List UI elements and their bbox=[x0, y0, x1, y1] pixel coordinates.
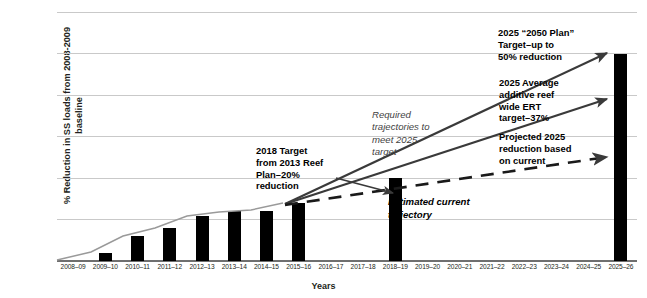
annotation-required-trajectories: Required trajectories to meet 2025 targe… bbox=[372, 109, 430, 159]
x-tick-2021-22: 2021–22 bbox=[480, 263, 505, 270]
x-tick-2024-25: 2024–25 bbox=[576, 263, 601, 270]
bar-2009-10 bbox=[99, 253, 112, 261]
annotation-projected-2025-reduction: Projected 2025 reduction based on curren… bbox=[499, 131, 571, 166]
x-tick-2009-10: 2009–10 bbox=[93, 263, 118, 270]
x-tick-2012-13: 2012–13 bbox=[190, 263, 215, 270]
x-tick-2010-11: 2010–11 bbox=[125, 263, 149, 270]
bar-2012-13 bbox=[196, 216, 209, 261]
bar-2013-14 bbox=[228, 211, 241, 261]
x-tick-2011-12: 2011–12 bbox=[158, 263, 182, 270]
gridline-10 bbox=[57, 219, 637, 220]
x-tick-2016-17: 2016–17 bbox=[318, 263, 343, 270]
x-tick-2008-09: 2008–09 bbox=[61, 263, 86, 270]
bar-2014-15 bbox=[260, 211, 273, 261]
annotation-target-2050-plan: 2025 “2050 Plan” Target–up to 50% reduct… bbox=[498, 27, 574, 62]
x-tick-2022-23: 2022–23 bbox=[512, 263, 537, 270]
x-tick-2015-16: 2015–16 bbox=[286, 263, 311, 270]
gridline-60 bbox=[57, 12, 637, 13]
x-tick-2019-20: 2019–20 bbox=[415, 263, 440, 270]
x-tick-2025-26: 2025–26 bbox=[608, 263, 633, 270]
bar-2015-16 bbox=[292, 203, 305, 261]
x-tick-2020-21: 2020–21 bbox=[447, 263, 472, 270]
gridline-20 bbox=[57, 178, 637, 179]
x-tick-2017-18: 2017–18 bbox=[351, 263, 376, 270]
x-axis-title: Years bbox=[0, 281, 647, 291]
x-tick-2023-24: 2023–24 bbox=[544, 263, 569, 270]
annotation-target-ert-37: 2025 Average additive reef wide ERT targ… bbox=[499, 77, 559, 124]
chart-root: % Reduction in SS loads from 2008-2009 b… bbox=[0, 0, 647, 298]
x-tick-2014-15: 2014–15 bbox=[254, 263, 279, 270]
annotation-estimated-current-trajectory: Estimated current trajectory bbox=[388, 196, 470, 221]
x-tick-2018-19: 2018–19 bbox=[383, 263, 408, 270]
bar-2025-26 bbox=[614, 54, 627, 261]
annotation-target-2018-reef-plan: 2018 Target from 2013 Reef Plan–20% redu… bbox=[256, 145, 323, 192]
bar-2011-12 bbox=[163, 228, 176, 261]
x-tick-2013-14: 2013–14 bbox=[222, 263, 247, 270]
bar-2010-11 bbox=[131, 236, 144, 261]
